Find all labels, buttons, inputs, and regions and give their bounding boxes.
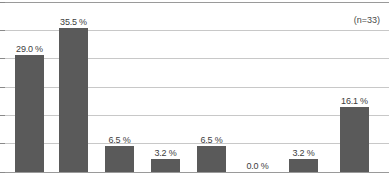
bar-value-label: 35.5 % (50, 17, 97, 27)
bar[interactable] (289, 159, 318, 172)
bar[interactable] (151, 159, 180, 172)
bar[interactable] (105, 146, 134, 172)
bar[interactable] (59, 28, 88, 172)
bar[interactable] (197, 146, 226, 172)
bar-value-label: 0.0 % (234, 161, 281, 171)
bar[interactable] (340, 107, 369, 172)
bar-value-label: 3.2 % (280, 148, 327, 158)
bar[interactable] (15, 55, 44, 172)
bars-layer: 29.0 % 35.5 % 6.5 % 3.2 % 6.5 % 0.0 % 3.… (0, 0, 389, 182)
bar-value-label: 6.5 % (96, 135, 143, 145)
bar-value-label: 3.2 % (142, 148, 189, 158)
bar-value-label: 6.5 % (188, 135, 235, 145)
bar-value-label: 29.0 % (6, 44, 53, 54)
bar-value-label: 16.1 % (331, 96, 378, 106)
bar-chart: (n=33) 29.0 % 35.5 % 6.5 % 3.2 % 6.5 % 0… (0, 0, 389, 182)
